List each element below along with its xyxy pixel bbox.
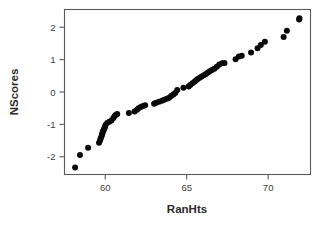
y-tick-label: -1 xyxy=(47,119,55,130)
data-point xyxy=(126,110,132,116)
y-tick-label: -2 xyxy=(47,151,55,162)
data-point xyxy=(284,28,290,34)
x-tick-label: 60 xyxy=(100,182,111,193)
y-tick-label: 0 xyxy=(50,87,55,98)
data-point xyxy=(72,164,78,170)
x-axis-title: RanHts xyxy=(167,203,207,215)
data-point xyxy=(248,50,254,56)
scatter-plot-figure: 606570 -2-1012 RanHts NScores xyxy=(0,0,335,225)
data-point xyxy=(77,152,83,158)
chart-background xyxy=(0,0,335,225)
data-point xyxy=(142,102,148,108)
data-point xyxy=(281,34,287,40)
y-tick-label: 1 xyxy=(50,54,55,65)
y-axis-title: NScores xyxy=(8,69,20,116)
data-point xyxy=(262,39,268,45)
y-tick-label: 2 xyxy=(50,22,55,33)
data-point xyxy=(239,53,245,59)
chart-canvas: 606570 -2-1012 RanHts NScores xyxy=(0,0,335,225)
data-point xyxy=(174,87,180,93)
x-tick-label: 70 xyxy=(263,182,274,193)
x-tick-label: 65 xyxy=(181,182,192,193)
data-point xyxy=(85,145,91,151)
data-point xyxy=(180,85,186,91)
data-point xyxy=(114,111,120,117)
data-point xyxy=(221,60,227,66)
data-point xyxy=(296,15,302,21)
